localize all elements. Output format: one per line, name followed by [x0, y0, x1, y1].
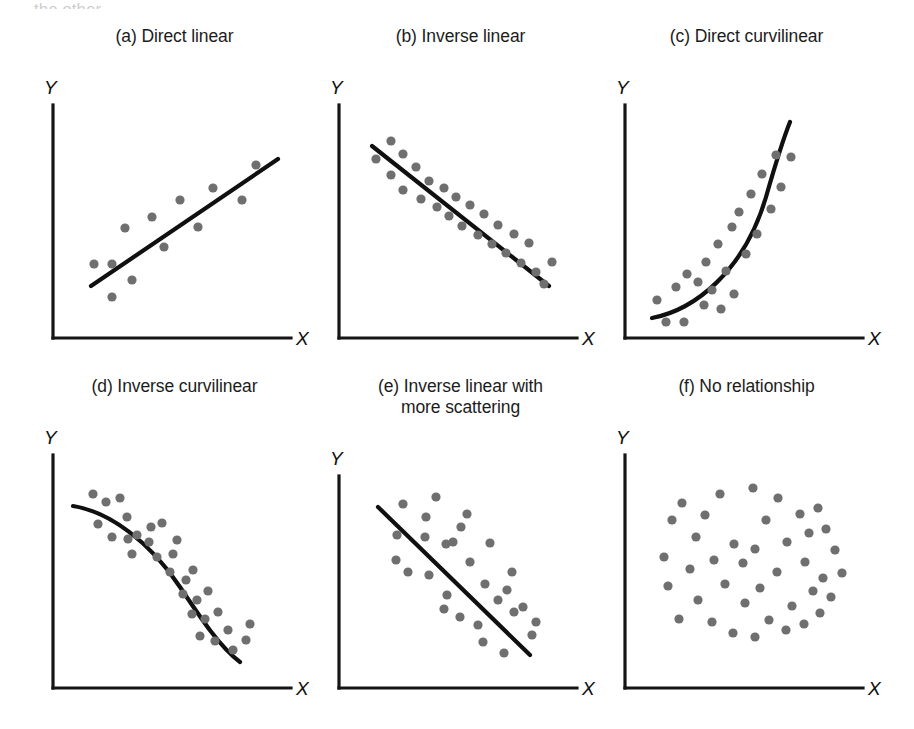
panel-d-dots [88, 489, 254, 654]
panel-f-y-axis-label: Y [616, 427, 630, 448]
panel-a-trend-line [91, 159, 278, 286]
panel-b-y-axis-label: Y [330, 77, 344, 98]
panel-b: (b) Inverse linear Y X [308, 22, 613, 386]
panel-b-dots [371, 136, 556, 288]
figure-root: the other. (a) Direct linear Y X [0, 0, 914, 729]
panel-d: (d) Inverse curvilinear Y X [22, 372, 327, 729]
clipped-preceding-text: the other. [34, 0, 334, 9]
panel-e-trend-line [378, 507, 530, 655]
panel-c-plot: Y X [594, 22, 899, 386]
panel-d-y-axis-label: Y [44, 427, 58, 448]
panel-a-plot: Y X [22, 22, 327, 386]
panel-d-plot: Y X [22, 372, 327, 729]
panel-a: (a) Direct linear Y X [22, 22, 327, 386]
panel-c: (c) Direct curvilinear Y X [594, 22, 899, 386]
panel-c-dots [652, 150, 795, 326]
panel-f-x-axis-label: X [867, 678, 882, 699]
panel-c-y-axis-label: Y [616, 77, 630, 98]
panel-e-y-axis-label: Y [330, 448, 344, 469]
panel-a-y-axis-label: Y [44, 77, 58, 98]
panel-f-plot: Y X [594, 372, 899, 729]
panel-e-plot: Y X [308, 372, 613, 729]
panel-e-dots [391, 492, 540, 657]
panel-e: (e) Inverse linear with more scattering … [308, 372, 613, 729]
panel-b-plot: Y X [308, 22, 613, 386]
panel-f-dots [659, 483, 846, 641]
panel-f: (f) No relationship Y X [594, 372, 899, 729]
panel-c-x-axis-label: X [867, 328, 882, 349]
